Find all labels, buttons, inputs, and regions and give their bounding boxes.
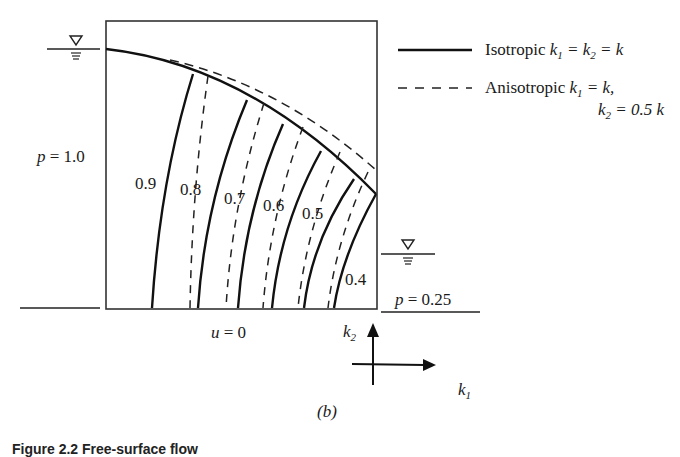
contour-label-0.8: 0.8 bbox=[180, 181, 201, 198]
right-water-table-icon bbox=[402, 240, 414, 249]
left-water-table-icon bbox=[70, 36, 82, 45]
right-boundary-label: p = 0.25 bbox=[395, 291, 451, 308]
legend-anisotropic-label: Anisotropic k1 = k, bbox=[485, 79, 614, 99]
figure-caption: Figure 2.2 Free-surface flow bbox=[12, 441, 198, 457]
k1-axis bbox=[352, 364, 425, 365]
free-surface-anisotropic bbox=[170, 60, 376, 170]
k2-arrow-icon bbox=[367, 323, 379, 337]
k2-axis-label: k2 bbox=[343, 323, 356, 343]
legend-isotropic-label: Isotropic k1 = k2 = k bbox=[485, 41, 623, 61]
bottom-boundary-label: u = 0 bbox=[211, 324, 246, 341]
k1-axis-label: k1 bbox=[458, 381, 471, 401]
left-boundary-label: p = 1.0 bbox=[37, 148, 85, 165]
contour-label-0.5: 0.5 bbox=[302, 205, 323, 222]
panel-label: (b) bbox=[317, 403, 337, 420]
contour-label-0.4: 0.4 bbox=[345, 271, 366, 288]
contour-label-0.6: 0.6 bbox=[263, 197, 284, 214]
k1-arrow-icon bbox=[423, 359, 436, 371]
contour-label-0.9: 0.9 bbox=[135, 175, 156, 192]
contour-label-0.7: 0.7 bbox=[224, 190, 245, 207]
legend-anisotropic-line2: k2 = 0.5 k bbox=[598, 101, 664, 121]
free-surface-isotropic bbox=[106, 49, 376, 194]
